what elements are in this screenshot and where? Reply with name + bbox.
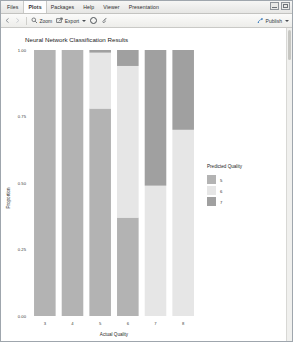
bar-segment [145,50,167,186]
tab-presentation[interactable]: Presentation [125,1,164,13]
bar-segment [172,50,194,130]
bar-segment [62,50,84,316]
pane-tab-strip: Files Plots Packages Help Viewer Present… [1,1,292,14]
broom-icon [101,17,108,24]
bar-segment [89,50,111,53]
bar-segment [172,130,194,316]
export-label: Export [65,17,79,25]
x-axis-label: Actual Quality [100,332,129,337]
legend-swatch[interactable] [207,197,216,206]
legend-swatch[interactable] [207,186,216,195]
tab-files[interactable]: Files [3,1,23,13]
bar-segment [145,186,167,316]
vertical-scrollbar[interactable] [286,28,292,341]
tab-packages[interactable]: Packages [47,1,80,13]
plots-toolbar: Zoom Export Publish [1,14,292,28]
clear-plots-button[interactable] [101,17,108,24]
stacked-bar-chart: Neural Network Classification Results Pr… [1,28,289,341]
y-tick-label: 0.00 [18,314,27,319]
tab-plots[interactable]: Plots [23,1,46,13]
back-arrow-icon[interactable] [4,17,11,24]
bar-segment [89,109,111,316]
publish-button[interactable]: Publish [257,14,289,27]
remove-plot-icon [90,17,98,25]
forward-arrow-icon[interactable] [14,17,21,24]
toolbar-separator-1 [26,17,27,25]
export-icon [56,17,63,24]
publish-label: Publish [266,18,282,24]
bar-segment [117,66,139,218]
magnifier-icon [31,17,38,24]
legend-swatch[interactable] [207,175,216,184]
y-tick-label: 0.50 [18,181,27,186]
zoom-button[interactable]: Zoom [31,17,52,25]
publish-icon [257,17,264,24]
bar-segment [89,53,111,109]
tab-viewer[interactable]: Viewer [99,1,124,13]
y-tick-label: 0.75 [18,114,27,119]
legend-title: Predicted Quality [207,164,243,169]
scrollbar-thumb[interactable] [288,30,291,60]
bar-segment [117,50,139,66]
window-controls [270,2,290,10]
remove-plot-button[interactable] [90,17,98,25]
chevron-down-icon [82,20,86,22]
bar-segment [117,218,139,316]
chart-title: Neural Network Classification Results [25,36,128,43]
publish-chevron-down-icon [285,20,289,22]
bar-segment [34,50,56,316]
y-tick-label: 1.00 [18,48,27,53]
zoom-label: Zoom [40,17,53,25]
y-tick-label: 0.25 [18,247,27,252]
export-button[interactable]: Export [56,17,85,25]
plots-pane: Files Plots Packages Help Viewer Present… [0,0,293,342]
y-axis-label: Proportion [6,187,11,209]
maximize-icon[interactable] [281,2,290,10]
minimize-icon[interactable] [270,2,279,10]
plot-navigation [4,17,21,24]
tab-help[interactable]: Help [79,1,99,13]
plot-canvas: Neural Network Classification Results Pr… [1,28,292,341]
